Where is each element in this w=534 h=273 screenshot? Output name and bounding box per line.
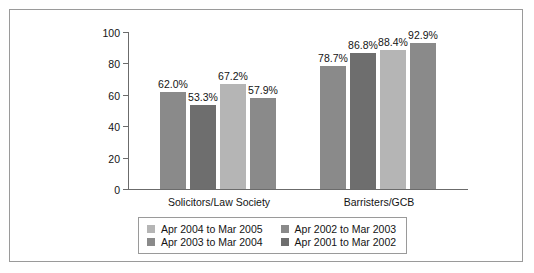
bar-series0-barristers[interactable]: 78.7% <box>320 66 346 190</box>
legend-swatch-icon <box>147 225 155 233</box>
x-axis-line <box>128 189 468 190</box>
legend-item-apr-2003-mar-2004[interactable]: Apr 2003 to Mar 2004 <box>147 236 263 248</box>
chart-legend: Apr 2004 to Mar 2005 Apr 2002 to Mar 200… <box>138 217 407 254</box>
y-axis-label-40: 40 <box>108 121 120 133</box>
y-axis-label-20: 20 <box>108 153 120 165</box>
bar-value-label: 53.3% <box>188 91 218 103</box>
y-axis-label-80: 80 <box>108 58 120 70</box>
bar-value-label: 86.8% <box>348 39 378 51</box>
legend-swatch-icon <box>281 225 289 233</box>
chart-panel: 0 20 40 60 80 100 62.0% 53.3% <box>9 9 523 262</box>
bar-group-barristers: 78.7% 86.8% 88.4% 92.9% Barristers/GCB <box>320 32 438 189</box>
y-axis-label-60: 60 <box>108 90 120 102</box>
bar-value-label: 88.4% <box>378 36 408 48</box>
bar-series2-barristers[interactable]: 88.4% <box>380 50 406 189</box>
category-label-barristers: Barristers/GCB <box>344 196 415 208</box>
legend-label: Apr 2004 to Mar 2005 <box>161 223 263 235</box>
bar-series2-solicitors[interactable]: 67.2% <box>220 84 246 190</box>
bar-value-label: 67.2% <box>218 70 248 82</box>
bar-value-label: 62.0% <box>158 78 188 90</box>
bar-series1-solicitors[interactable]: 53.3% <box>190 105 216 189</box>
legend-item-apr-2001-mar-2002[interactable]: Apr 2001 to Mar 2002 <box>281 236 397 248</box>
y-axis-line <box>128 32 129 190</box>
plot-area: 0 20 40 60 80 100 62.0% 53.3% <box>128 32 468 190</box>
legend-label: Apr 2002 to Mar 2003 <box>295 223 397 235</box>
bar-series1-barristers[interactable]: 86.8% <box>350 53 376 189</box>
y-axis-label-0: 0 <box>114 184 120 196</box>
bar-series0-solicitors[interactable]: 62.0% <box>160 92 186 189</box>
legend-item-apr-2002-mar-2003[interactable]: Apr 2002 to Mar 2003 <box>281 223 397 235</box>
category-label-solicitors: Solicitors/Law Society <box>168 196 270 208</box>
legend-item-apr-2004-mar-2005[interactable]: Apr 2004 to Mar 2005 <box>147 223 263 235</box>
y-axis-label-100: 100 <box>102 27 120 39</box>
legend-swatch-icon <box>281 238 289 246</box>
bar-series3-barristers[interactable]: 92.9% <box>410 43 436 189</box>
bar-series3-solicitors[interactable]: 57.9% <box>250 98 276 189</box>
legend-swatch-icon <box>147 238 155 246</box>
bar-value-label: 78.7% <box>318 52 348 64</box>
bar-group-solicitors: 62.0% 53.3% 67.2% 57.9% Solicitors/Law S… <box>160 32 278 189</box>
legend-label: Apr 2003 to Mar 2004 <box>161 236 263 248</box>
bar-value-label: 92.9% <box>408 29 438 41</box>
bar-value-label: 57.9% <box>248 84 278 96</box>
legend-label: Apr 2001 to Mar 2002 <box>295 236 397 248</box>
